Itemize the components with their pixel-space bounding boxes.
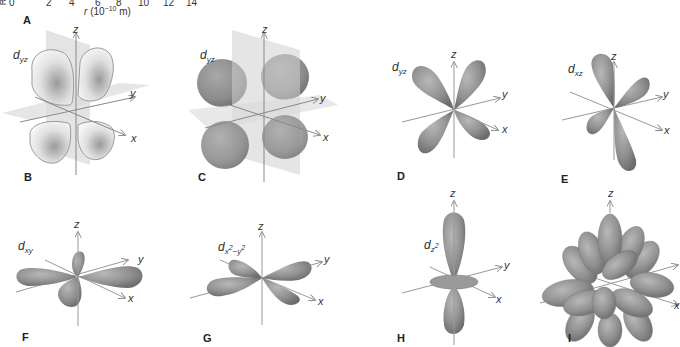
z-axis-label: z: [262, 23, 268, 35]
z-axis-label: z: [608, 187, 614, 199]
orbital-diagram-dxy-lobes: [0, 190, 190, 347]
x-axis-label: x: [496, 293, 502, 305]
orbital-label: dz2: [424, 238, 439, 254]
z-axis-label: z: [258, 220, 264, 232]
orbital-diagram-dx2-y2-lobes: [190, 190, 370, 347]
tick-label: 14: [186, 0, 197, 8]
panel-h: z y x dz2 H: [380, 185, 530, 347]
x-axis-label: x: [323, 131, 329, 143]
panel-d: z y x dyz D: [370, 30, 530, 190]
orbital-diagram-dyz-lobes: [370, 30, 530, 190]
radial-axis: R 0 2 4 6 8 10 12 14 r (10−10 m): [0, 0, 250, 20]
orbital-label: dx2−y2: [218, 240, 245, 256]
panel-c: z y x dyz C: [170, 25, 350, 190]
y-axis-label: y: [663, 88, 669, 100]
x-axis-label: x: [502, 123, 508, 135]
panel-f: z y x dxy F: [0, 190, 190, 347]
panel-b: z y x dyz B: [0, 25, 170, 190]
y-axis-label: y: [324, 253, 330, 265]
panel-letter-d: D: [397, 170, 405, 182]
z-axis-label: z: [451, 48, 457, 60]
tick-label: 10: [138, 0, 149, 8]
orbital-label: dxz: [568, 62, 583, 78]
y-axis-label: y: [130, 87, 136, 99]
panel-letter-g: G: [203, 332, 212, 344]
x-axis-label: x: [664, 124, 670, 136]
tick-label: 12: [163, 0, 174, 8]
orbital-diagram-dxz-lobes: [540, 30, 678, 190]
orbital-label: dyz: [200, 48, 215, 64]
panel-i: z x I: [530, 185, 678, 347]
x-axis-label: x: [318, 295, 324, 307]
panel-letter-b: B: [24, 171, 32, 183]
panel-letter-c: C: [198, 171, 206, 183]
x-axis-label: x: [674, 299, 680, 311]
panel-letter-f: F: [22, 331, 29, 343]
z-axis-label: z: [611, 50, 617, 62]
x-axis-label: x: [131, 132, 137, 144]
x-axis-label: x: [128, 292, 134, 304]
z-axis-label: z: [74, 218, 80, 230]
y-axis-label: y: [138, 253, 144, 265]
axis-stub-label: R: [0, 0, 8, 5]
panel-letter-e: E: [561, 173, 568, 185]
panel-letter-i: I: [568, 332, 571, 344]
radial-axis-title: r (10−10 m): [84, 5, 131, 17]
tick-label: 2: [46, 0, 52, 8]
z-axis-label: z: [73, 23, 79, 35]
y-axis-label: y: [320, 92, 326, 104]
orbital-label: dyz: [392, 60, 407, 76]
orbital-label: dxy: [18, 239, 33, 255]
panel-letter-h: H: [397, 332, 405, 344]
orbital-diagram-dyz-boundary: [170, 25, 350, 190]
panel-g: z y x dx2−y2 G: [190, 190, 370, 347]
panel-e: z y x dxz E: [540, 30, 678, 190]
orbital-label: dyz: [13, 48, 28, 64]
y-axis-label: y: [502, 88, 508, 100]
y-axis-label: y: [504, 259, 510, 271]
tick-label: 0: [9, 0, 15, 8]
tick-label: 4: [69, 0, 75, 8]
orbital-diagram-all-d-superposition: [530, 185, 678, 347]
z-axis-label: z: [450, 187, 456, 199]
